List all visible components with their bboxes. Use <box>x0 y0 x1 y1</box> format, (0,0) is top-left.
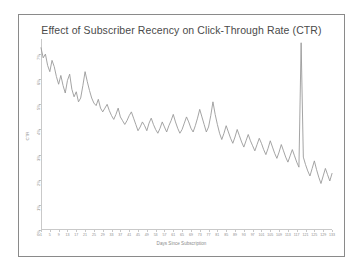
plot-area: 0%1%2%3%4%5%6%7% 15913172125293337414549… <box>41 39 332 230</box>
x-tick-label: 65 <box>180 233 184 237</box>
x-tick-label: 1 <box>40 233 42 237</box>
x-tick-label: 117 <box>294 233 300 237</box>
ctr-line-series <box>41 39 332 230</box>
x-tick-label: 125 <box>311 233 317 237</box>
x-axis-label: Days Since Subscription <box>19 241 344 246</box>
chart-figure-frame: Effect of Subscriber Recency on Click-Th… <box>18 14 345 257</box>
x-tick-label: 97 <box>251 233 255 237</box>
x-tick-mark <box>226 230 227 232</box>
x-tick-label: 25 <box>92 233 96 237</box>
x-tick-mark <box>156 230 157 232</box>
x-tick-mark <box>50 230 51 232</box>
x-tick-mark <box>191 230 192 232</box>
x-tick-mark <box>261 230 262 232</box>
x-tick-label: 37 <box>118 233 122 237</box>
x-tick-mark <box>103 230 104 232</box>
x-tick-mark <box>253 230 254 232</box>
x-tick-label: 17 <box>74 233 78 237</box>
x-tick-label: 89 <box>233 233 237 237</box>
x-tick-label: 57 <box>162 233 166 237</box>
x-tick-label: 53 <box>154 233 158 237</box>
x-tick-mark <box>244 230 245 232</box>
x-tick-label: 29 <box>101 233 105 237</box>
x-tick-mark <box>173 230 174 232</box>
x-tick-label: 101 <box>258 233 264 237</box>
x-tick-mark <box>288 230 289 232</box>
y-tick-label: 6% <box>36 79 41 85</box>
x-tick-label: 109 <box>276 233 282 237</box>
x-tick-label: 129 <box>320 233 326 237</box>
y-tick-label: 4% <box>36 129 41 135</box>
x-tick-mark <box>67 230 68 232</box>
x-tick-label: 93 <box>242 233 246 237</box>
x-tick-mark <box>138 230 139 232</box>
x-tick-mark <box>129 230 130 232</box>
x-tick-mark <box>147 230 148 232</box>
x-tick-mark <box>94 230 95 232</box>
x-tick-mark <box>279 230 280 232</box>
x-tick-label: 21 <box>83 233 87 237</box>
x-tick-label: 9 <box>58 233 60 237</box>
x-tick-label: 13 <box>65 233 69 237</box>
x-tick-mark <box>209 230 210 232</box>
x-tick-label: 5 <box>49 233 51 237</box>
x-tick-label: 77 <box>207 233 211 237</box>
x-tick-mark <box>217 230 218 232</box>
y-tick-label: 5% <box>36 104 41 110</box>
y-tick-label: 7% <box>36 54 41 60</box>
x-tick-mark <box>270 230 271 232</box>
x-tick-mark <box>200 230 201 232</box>
x-tick-label: 69 <box>189 233 193 237</box>
x-tick-mark <box>41 230 42 232</box>
x-tick-mark <box>182 230 183 232</box>
y-tick-label: 2% <box>36 180 41 186</box>
y-tick-label: 3% <box>36 155 41 161</box>
x-tick-mark <box>120 230 121 232</box>
x-tick-mark <box>85 230 86 232</box>
x-tick-label: 133 <box>329 233 335 237</box>
x-tick-mark <box>306 230 307 232</box>
x-tick-label: 45 <box>136 233 140 237</box>
x-tick-mark <box>59 230 60 232</box>
x-tick-label: 85 <box>224 233 228 237</box>
y-tick-label: 1% <box>36 205 41 211</box>
x-tick-label: 81 <box>215 233 219 237</box>
x-tick-mark <box>76 230 77 232</box>
x-tick-label: 61 <box>171 233 175 237</box>
x-tick-label: 113 <box>285 233 291 237</box>
x-tick-mark <box>297 230 298 232</box>
x-tick-label: 105 <box>267 233 273 237</box>
x-tick-label: 121 <box>303 233 309 237</box>
x-tick-mark <box>112 230 113 232</box>
x-tick-mark <box>323 230 324 232</box>
x-tick-mark <box>235 230 236 232</box>
x-tick-mark <box>314 230 315 232</box>
x-tick-label: 73 <box>198 233 202 237</box>
y-axis-label: CTR <box>25 131 30 140</box>
x-tick-mark <box>332 230 333 232</box>
x-tick-label: 41 <box>127 233 131 237</box>
chart-title: Effect of Subscriber Recency on Click-Th… <box>19 24 344 36</box>
x-tick-label: 49 <box>145 233 149 237</box>
x-tick-label: 33 <box>110 233 114 237</box>
x-tick-mark <box>164 230 165 232</box>
